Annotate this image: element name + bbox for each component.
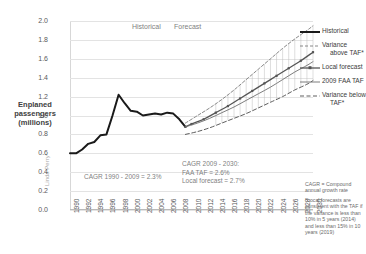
series-marker — [251, 90, 253, 92]
x-tick-label: 1998 — [122, 199, 129, 213]
legend-label-line2: above TAF* — [322, 49, 366, 57]
series-marker — [263, 82, 265, 84]
series-marker — [275, 75, 277, 77]
legend-swatch-icon — [300, 79, 320, 85]
y-tick-label: 0.0 — [26, 206, 48, 213]
x-tick-label: 1990 — [73, 199, 80, 213]
x-tick-label: 1994 — [97, 199, 104, 213]
legend-swatch-icon — [300, 43, 320, 49]
x-tick-label: 2024 — [280, 199, 287, 213]
series-marker — [239, 97, 241, 99]
x-tick-label: 2026 — [292, 199, 299, 213]
chart-page: Enplaned passengers (millions) Linda Per… — [0, 0, 366, 254]
x-tick-label: 2008 — [182, 199, 189, 213]
series-line — [185, 26, 313, 123]
series-marker — [288, 67, 290, 69]
series-line — [185, 52, 313, 127]
variance-band-hatch — [216, 26, 313, 126]
legend-swatch-icon — [300, 93, 320, 99]
x-tick-label: 2012 — [207, 199, 214, 213]
x-tick-label: 2020 — [255, 199, 262, 213]
y-tick-label: 1.6 — [26, 55, 48, 62]
legend-item[interactable]: Variance belowTAF* — [300, 91, 366, 107]
x-tick-label: 2000 — [134, 199, 141, 213]
series-line — [185, 81, 313, 135]
annotation-cagr-forecast: CAGR 2009 - 2030: FAA TAF = 2.6% Local f… — [182, 160, 245, 186]
legend-swatch-icon — [300, 65, 320, 71]
y-tick-label: 1.8 — [26, 36, 48, 43]
y-tick-label: 1.4 — [26, 74, 48, 81]
x-tick-label: 2006 — [170, 199, 177, 213]
y-tick-label: 2.0 — [26, 17, 48, 24]
x-tick-label: 2002 — [146, 199, 153, 213]
note-cagr-definition: CAGR = Compound annual growth rate — [305, 181, 363, 194]
y-tick-label: 0.4 — [26, 168, 48, 175]
x-tick-label: 2018 — [243, 199, 250, 213]
x-tick-label: 2022 — [267, 199, 274, 213]
y-tick-label: 0.8 — [26, 130, 48, 137]
chart-legend: HistoricalVarianceabove TAF*Local foreca… — [300, 27, 366, 113]
legend-item[interactable]: Historical — [300, 27, 366, 35]
cropped-header-text — [0, 0, 366, 10]
series-marker — [215, 112, 217, 114]
plot-area: Historical Forecast CAGR 1990 - 2009 = 2… — [70, 21, 313, 210]
series-marker — [227, 105, 229, 107]
legend-swatch-icon — [300, 29, 320, 35]
legend-item[interactable]: Local forecast — [300, 63, 366, 71]
y-tick-label: 0.6 — [26, 149, 48, 156]
y-tick-label: 1.0 — [26, 112, 48, 119]
y-tick-label: 1.2 — [26, 93, 48, 100]
y-tick-label: 0.2 — [26, 187, 48, 194]
x-tick-label: 1992 — [85, 199, 92, 213]
annotation-cagr-historical: CAGR 1990 - 2009 = 2.3% — [84, 173, 162, 182]
x-tick-label: 2014 — [219, 199, 226, 213]
x-tick-label: 2016 — [231, 199, 238, 213]
x-tick-label: 1996 — [109, 199, 116, 213]
note-variance-footnote: *Local forecasts are consistent with the… — [305, 197, 363, 235]
series-line — [185, 62, 313, 127]
legend-item[interactable]: Varianceabove TAF* — [300, 41, 366, 57]
x-tick-label: 2004 — [158, 199, 165, 213]
legend-label-line2: TAF* — [322, 99, 366, 107]
x-tick-label: 2010 — [195, 199, 202, 213]
legend-item[interactable]: 2009 FAA TAF — [300, 77, 366, 85]
gridline — [70, 210, 313, 211]
series-line — [70, 95, 185, 154]
